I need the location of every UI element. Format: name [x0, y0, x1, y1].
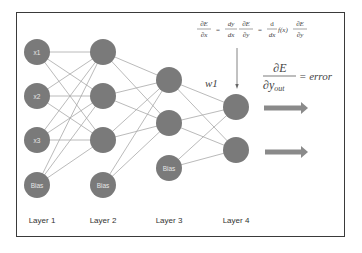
layer-label: Layer 4 [223, 216, 250, 225]
chain-rule-formula: ∂E ∂x = dy dx ∂E ∂y = d dx f(x) ∂E ∂y [197, 20, 307, 39]
formula-lhs-numerator: ∂E [200, 20, 208, 28]
formula-fx: f(x) [278, 26, 288, 34]
layer-label: Layer 3 [156, 216, 183, 225]
formula-equals-1: = [216, 26, 220, 34]
output-arrow-icon-2 [265, 146, 308, 158]
formula-t3-denominator: dx [269, 31, 277, 39]
output-arrow-icon-1 [264, 102, 308, 114]
error-rhs: = error [299, 70, 333, 82]
node-label: Bias [31, 182, 44, 189]
bias-node: Bias [156, 155, 182, 181]
connections [37, 52, 236, 185]
error-numerator: ∂E [273, 61, 287, 75]
neuron-node [156, 67, 182, 93]
node-label: Bias [163, 165, 176, 172]
layer-label: Layer 2 [90, 216, 117, 225]
formula-t2-denominator: ∂y [243, 31, 250, 39]
neurons: x1x2x3BiasBiasBias [24, 39, 249, 198]
neuron-node [90, 127, 116, 153]
neuron-node: x3 [24, 127, 50, 153]
formula-equals-2: = [258, 26, 262, 34]
node-label: x3 [34, 137, 41, 144]
neuron-node: x1 [24, 39, 50, 65]
neuron-node [223, 94, 249, 120]
weight-label: w1 [205, 77, 218, 89]
formula-t1-denominator: dx [228, 31, 236, 39]
neuron-node [90, 83, 116, 109]
layer-labels: Layer 1Layer 2Layer 3Layer 4 [29, 216, 250, 225]
node-label: x1 [34, 49, 41, 56]
neural-network-diagram: x1x2x3BiasBiasBias Layer 1Layer 2Layer 3… [0, 0, 362, 253]
formula-t1-numerator: dy [228, 20, 236, 28]
layer-label: Layer 1 [29, 216, 56, 225]
neuron-node: x2 [24, 83, 50, 109]
formula-t3-numerator: d [270, 20, 274, 28]
connection-edge [37, 52, 103, 185]
neuron-node [90, 39, 116, 65]
formula-t4-numerator: ∂E [296, 20, 304, 28]
down-arrow-icon [235, 48, 238, 89]
error-denominator: ∂yout [263, 78, 285, 93]
node-label: x2 [34, 93, 41, 100]
neuron-node [156, 110, 182, 136]
formula-lhs-denominator: ∂x [201, 31, 208, 39]
node-label: Bias [97, 182, 110, 189]
formula-t2-numerator: ∂E [242, 20, 250, 28]
formula-t4-denominator: ∂y [297, 31, 304, 39]
neuron-node [223, 137, 249, 163]
error-formula: ∂E ∂yout = error [263, 61, 333, 93]
bias-node: Bias [24, 172, 50, 198]
bias-node: Bias [90, 172, 116, 198]
